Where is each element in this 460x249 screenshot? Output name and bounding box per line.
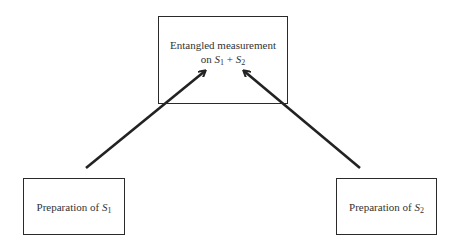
entangled-measurement-box: Entangled measurement on S1 + S2 (158, 16, 288, 104)
plus-sign: + (224, 53, 236, 65)
top-box-prefix: on (201, 53, 215, 65)
preparation-s1-box: Preparation of S1 (23, 178, 125, 235)
right-box-label: Preparation of S2 (349, 200, 424, 214)
preparation-s2-box: Preparation of S2 (336, 178, 437, 235)
right-sub: 2 (420, 206, 424, 215)
top-box-line1: Entangled measurement (170, 38, 276, 52)
left-sub: 1 (107, 206, 111, 215)
right-prefix: Preparation of (349, 201, 414, 213)
left-prefix: Preparation of (37, 201, 102, 213)
sub-2: 2 (241, 58, 245, 67)
top-box-line2: on S1 + S2 (170, 52, 276, 66)
left-box-label: Preparation of S1 (37, 200, 112, 214)
